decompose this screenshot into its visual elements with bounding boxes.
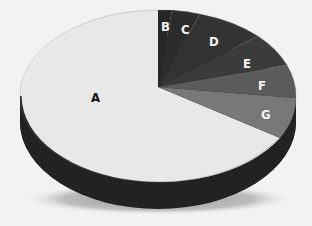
label-G: G [261,107,271,122]
label-E: E [243,56,251,71]
label-C: C [181,22,190,37]
label-B: B [161,19,170,34]
label-D: D [209,34,219,49]
label-F: F [258,78,266,93]
pie-chart: A B C D E F G [0,0,312,226]
label-A: A [91,90,100,105]
